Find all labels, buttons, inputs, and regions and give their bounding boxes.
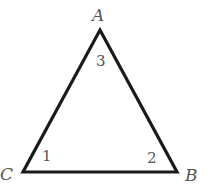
vertex-label-b: B [184,165,198,185]
vertex-label-c: C [0,164,13,184]
vertex-label-a: A [90,5,104,25]
angle-label-1: 1 [42,147,52,165]
angle-label-3: 3 [96,52,106,70]
angle-label-2: 2 [147,149,157,167]
triangle-diagram: A B C 3 1 2 [0,0,214,188]
